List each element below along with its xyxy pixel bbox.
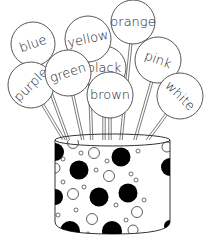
- word-lollipop-white: white: [157, 73, 203, 119]
- polka-dot-vase: [46, 134, 179, 240]
- word-lollipop-brown: brown: [87, 72, 133, 118]
- word-circles: orangeblackblueyellowpinkpurplegreenwhit…: [8, 0, 203, 119]
- word-lollipop-blue: blue: [11, 22, 55, 66]
- word-lollipop-orange: orange: [110, 0, 155, 44]
- word-label: orange: [110, 14, 155, 29]
- color-words-illustration: orangeblackblueyellowpinkpurplegreenwhit…: [0, 0, 208, 240]
- word-label: brown: [90, 87, 130, 102]
- word-lollipop-green: green: [45, 50, 91, 96]
